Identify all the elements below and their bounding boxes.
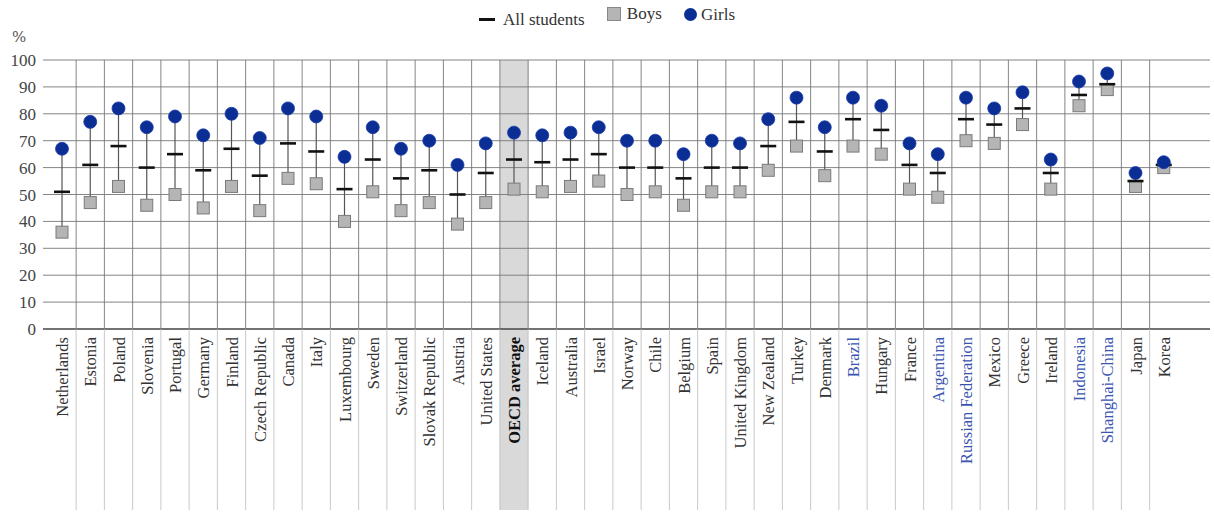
boys-marker — [282, 172, 294, 184]
girls-marker — [56, 142, 69, 155]
boys-marker — [141, 199, 153, 211]
boys-marker — [649, 186, 661, 198]
data-point-group — [1015, 86, 1031, 131]
girls-marker — [140, 121, 153, 134]
girls-marker — [875, 99, 888, 112]
data-point-group — [195, 129, 211, 214]
data-point-group — [619, 134, 635, 200]
x-tick-label: Finland — [223, 336, 242, 387]
boys-marker — [56, 226, 68, 238]
girls-marker — [734, 137, 747, 150]
boys-marker — [536, 186, 548, 198]
x-tick-label: New Zealand — [759, 336, 778, 425]
boys-marker — [84, 197, 96, 209]
boys-marker — [113, 180, 125, 192]
girls-marker — [705, 134, 718, 147]
boys-marker — [847, 140, 859, 152]
x-tick-label: Australia — [562, 336, 581, 397]
boys-marker — [734, 186, 746, 198]
x-tick-label: Germany — [194, 336, 213, 398]
data-point-group — [308, 110, 324, 190]
y-tick-label: 100 — [11, 51, 37, 70]
x-tick-label: Indonesia — [1070, 336, 1089, 401]
girls-marker — [479, 137, 492, 150]
x-tick-label: OECD average — [505, 337, 524, 444]
y-tick-label: 80 — [19, 105, 36, 124]
data-point-group — [280, 102, 296, 184]
girls-marker — [1016, 86, 1029, 99]
girls-marker — [564, 126, 577, 139]
x-tick-label: Japan — [1127, 337, 1146, 375]
girls-marker — [451, 158, 464, 171]
x-tick-label: Iceland — [533, 336, 552, 385]
legend-label: Girls — [701, 5, 735, 25]
x-tick-label: Turkey — [788, 336, 807, 384]
girls-marker — [1129, 166, 1142, 179]
boys-marker — [197, 202, 209, 214]
boys-marker — [226, 180, 238, 192]
x-tick-label: Belgium — [675, 337, 694, 394]
boys-marker — [762, 164, 774, 176]
data-point-group — [139, 121, 155, 212]
boys-marker — [169, 189, 181, 201]
y-axis: % 0102030405060708090100 — [11, 28, 37, 339]
girls-marker — [960, 91, 973, 104]
y-tick-label: 90 — [19, 78, 36, 97]
data-point-group — [450, 158, 466, 230]
boys-marker — [593, 175, 605, 187]
girls-marker — [903, 137, 916, 150]
girls-marker — [253, 132, 266, 145]
girls-marker — [762, 113, 775, 126]
girls-marker — [1157, 156, 1170, 169]
girls-marker — [621, 134, 634, 147]
boys-marker — [791, 140, 803, 152]
legend: All students Boys Girls — [0, 4, 1214, 30]
boys-marker — [988, 137, 1000, 149]
data-point-group — [845, 91, 861, 152]
data-point-group — [1071, 75, 1087, 112]
data-point-group — [252, 132, 268, 217]
data-point-group — [111, 102, 127, 193]
data-point-group — [1156, 156, 1172, 174]
x-tick-label: Korea — [1155, 336, 1174, 377]
girls-marker — [790, 91, 803, 104]
boys-marker — [452, 218, 464, 230]
y-tick-label: 30 — [19, 239, 36, 258]
x-tick-label: Brazil — [844, 337, 863, 378]
boys-marker — [480, 197, 492, 209]
gridlines — [43, 60, 1210, 510]
boys-marker — [932, 191, 944, 203]
girls-marker — [112, 102, 125, 115]
data-point-group — [478, 137, 494, 209]
data-point-group — [704, 134, 720, 198]
data-point-group — [365, 121, 381, 198]
y-tick-label: 60 — [19, 159, 36, 178]
x-tick-label: Russian Federation — [957, 337, 976, 464]
data-point-group — [167, 110, 183, 201]
boys-marker — [706, 186, 718, 198]
girls-marker — [847, 91, 860, 104]
x-tick-label: Hungary — [872, 336, 891, 394]
y-tick-label: 10 — [19, 293, 36, 312]
x-tick-label: Luxembourg — [336, 337, 355, 422]
girls-marker — [310, 110, 323, 123]
girls-marker — [84, 115, 97, 128]
x-tick-label: Switzerland — [392, 336, 411, 416]
data-point-group — [760, 113, 776, 177]
x-tick-label: Norway — [618, 336, 637, 390]
data-point-group — [393, 142, 409, 216]
x-tick-label: Poland — [110, 336, 129, 383]
data-point-group — [817, 121, 833, 182]
y-tick-label: 20 — [19, 266, 36, 285]
x-tick-label: Austria — [449, 336, 468, 385]
data-point-group — [986, 102, 1002, 149]
boys-marker — [1073, 100, 1085, 112]
square-icon — [607, 7, 621, 21]
x-tick-label: Czech Republic — [251, 337, 270, 442]
circle-icon — [684, 8, 697, 21]
girls-marker — [366, 121, 379, 134]
data-point-group — [902, 137, 918, 195]
boys-marker — [254, 205, 266, 217]
x-axis-labels: NetherlandsEstoniaPolandSloveniaPortugal… — [53, 336, 1174, 464]
boys-marker — [310, 178, 322, 190]
